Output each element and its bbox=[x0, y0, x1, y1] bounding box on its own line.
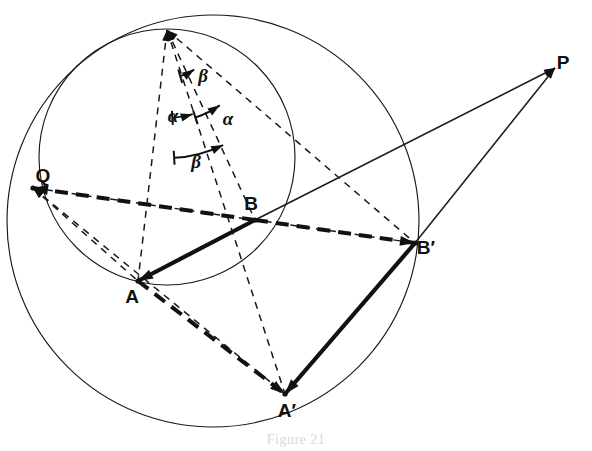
point-label-A: A bbox=[125, 286, 139, 307]
segment-Bprime-to-P bbox=[415, 68, 555, 243]
segment-A-to-B bbox=[138, 220, 255, 281]
point-label-B: B bbox=[244, 193, 258, 214]
segment-apex-to-Aprime bbox=[167, 30, 285, 394]
angle-label-beta-lower: β bbox=[190, 151, 201, 172]
segment-A-to-Aprime bbox=[138, 281, 285, 394]
large-circle bbox=[7, 15, 419, 427]
point-label-P: P bbox=[557, 52, 570, 73]
angle-arrowhead-beta-upper bbox=[182, 70, 194, 80]
angle-label-alpha-right: α bbox=[223, 108, 234, 129]
angle-arcs-layer: βααβ bbox=[168, 65, 234, 172]
figure-caption: Figure 21 bbox=[0, 432, 592, 448]
angle-label-beta-upper: β bbox=[197, 65, 208, 86]
segment-apex-to-B bbox=[167, 30, 255, 220]
angle-arrowhead-alpha-right bbox=[207, 105, 219, 115]
point-marker-B bbox=[252, 217, 257, 222]
segment-Aprime-to-Bprime bbox=[285, 243, 415, 394]
figure-container: βααβ QABA′B′P Figure 21 bbox=[0, 0, 592, 451]
small-circle bbox=[39, 29, 295, 285]
segment-apex-to-A bbox=[138, 30, 167, 281]
point-label-Aprime: A′ bbox=[278, 400, 297, 421]
point-labels-layer: QABA′B′P bbox=[36, 52, 570, 421]
angle-arrowhead-beta-lower bbox=[210, 145, 223, 154]
arrowhead-A-to-B bbox=[138, 270, 154, 281]
point-marker-Aprime bbox=[282, 391, 287, 396]
angle-tick-beta-lower bbox=[174, 151, 175, 165]
geometry-diagram: βααβ QABA′B′P bbox=[0, 0, 592, 451]
point-label-Q: Q bbox=[36, 165, 51, 186]
point-marker-A bbox=[135, 278, 140, 283]
circles-layer bbox=[7, 15, 419, 427]
point-marker-Q bbox=[30, 185, 35, 190]
point-label-Bprime: B′ bbox=[417, 237, 436, 258]
angle-arrowhead-alpha-left bbox=[180, 113, 193, 121]
segments-layer bbox=[33, 30, 555, 394]
angle-label-alpha-left: α bbox=[168, 105, 179, 126]
